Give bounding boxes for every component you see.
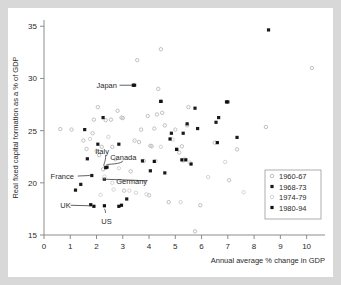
leader-line (71, 205, 90, 206)
data-point (137, 140, 140, 143)
annotation-us: US (101, 209, 111, 226)
data-point (167, 200, 170, 203)
data-point (117, 167, 120, 170)
y-tick-label: 15 (28, 231, 37, 240)
annotation-label-uk: UK (60, 201, 70, 210)
data-point (193, 107, 196, 110)
data-point (117, 143, 120, 146)
series-1980-94 (89, 84, 228, 208)
annotation-label-japan: Japan (97, 81, 117, 90)
annotation-label-italy: Italy (95, 147, 109, 156)
data-point (141, 159, 144, 162)
data-point (109, 118, 112, 121)
data-point (82, 139, 85, 142)
data-point (206, 175, 209, 178)
data-point (160, 111, 163, 114)
data-point (116, 109, 119, 112)
data-point (159, 145, 162, 148)
annotation-japan: Japan (97, 81, 132, 90)
data-point (103, 204, 106, 207)
data-point (111, 181, 114, 184)
data-point (216, 141, 219, 144)
data-point (92, 118, 95, 121)
legend-label: 1974-79 (279, 193, 307, 202)
data-point (187, 105, 190, 108)
legend-label: 1980-94 (279, 204, 307, 213)
annotation-germany: Germany (102, 177, 147, 186)
data-point (159, 100, 162, 103)
data-point (242, 191, 245, 194)
data-point (83, 128, 86, 131)
data-point (136, 58, 139, 61)
data-point (186, 122, 189, 125)
data-point (149, 169, 152, 172)
y-tick-label: 20 (28, 179, 37, 188)
annotation-label-france: France (51, 172, 74, 181)
data-point (214, 121, 217, 124)
scatter-plot: 0123456789101520253035Annual average % c… (8, 8, 333, 277)
data-point (129, 170, 132, 173)
data-point (134, 191, 137, 194)
data-point (104, 166, 107, 169)
data-point (267, 28, 270, 31)
x-tick-label: 0 (42, 242, 47, 251)
x-tick-label: 7 (226, 242, 231, 251)
data-point (264, 125, 267, 128)
data-point (92, 205, 95, 208)
y-tick-label: 35 (28, 22, 37, 31)
data-point (235, 148, 238, 151)
data-point (225, 100, 228, 103)
data-point (88, 137, 91, 140)
data-point (86, 157, 89, 160)
data-point (159, 48, 162, 51)
data-point (168, 137, 171, 140)
data-point (91, 132, 94, 135)
x-tick-label: 6 (199, 242, 204, 251)
data-point (85, 147, 88, 150)
legend-marker (270, 206, 273, 209)
x-tick-label: 4 (147, 242, 152, 251)
data-point (199, 204, 202, 207)
data-point (179, 200, 182, 203)
annotation-canada: Canada (107, 153, 138, 165)
data-point (59, 127, 62, 130)
data-point (90, 174, 93, 177)
x-tick-label: 2 (94, 242, 99, 251)
data-point (193, 230, 196, 233)
data-point (178, 151, 181, 154)
x-tick-label: 8 (252, 242, 257, 251)
legend: 1960-671968-731974-791980-94 (265, 170, 321, 219)
data-point (139, 128, 142, 131)
x-tick-label: 10 (302, 242, 311, 251)
annotation-label-us: US (101, 217, 111, 226)
data-point (107, 135, 110, 138)
x-axis-title: Annual average % change in GDP (211, 256, 325, 265)
x-tick-label: 5 (173, 242, 178, 251)
data-point (217, 116, 220, 119)
data-point (70, 128, 73, 131)
data-point (155, 113, 158, 116)
legend-label: 1968-73 (279, 183, 307, 192)
data-point (174, 128, 177, 131)
data-point (122, 189, 125, 192)
data-point (128, 189, 131, 192)
data-point (153, 160, 156, 163)
data-point (184, 158, 187, 161)
data-point (132, 84, 135, 87)
data-point (189, 162, 192, 165)
data-point (125, 197, 128, 200)
data-point (157, 87, 160, 90)
data-point (99, 193, 102, 196)
x-tick-label: 1 (68, 242, 73, 251)
annotation-france: France (51, 172, 90, 181)
data-point (310, 66, 313, 69)
y-tick-label: 25 (28, 127, 37, 136)
data-point (163, 171, 166, 174)
annotation-label-canada: Canada (110, 153, 137, 162)
annotation-label-germany: Germany (116, 177, 147, 186)
data-point (146, 114, 149, 117)
data-point (170, 132, 173, 135)
legend-label: 1960-67 (279, 172, 307, 181)
data-point (175, 148, 178, 151)
data-point (96, 143, 99, 146)
